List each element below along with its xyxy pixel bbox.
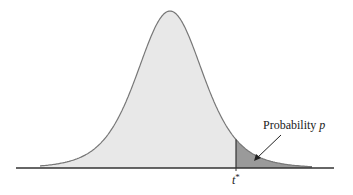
label-arrow-line	[257, 135, 281, 158]
critical-value-label: t*	[232, 172, 240, 187]
shaded-tail-region	[236, 140, 312, 169]
t-distribution-diagram: t* Probability p	[0, 0, 353, 195]
tail-probability-label: Probability p	[263, 118, 325, 132]
